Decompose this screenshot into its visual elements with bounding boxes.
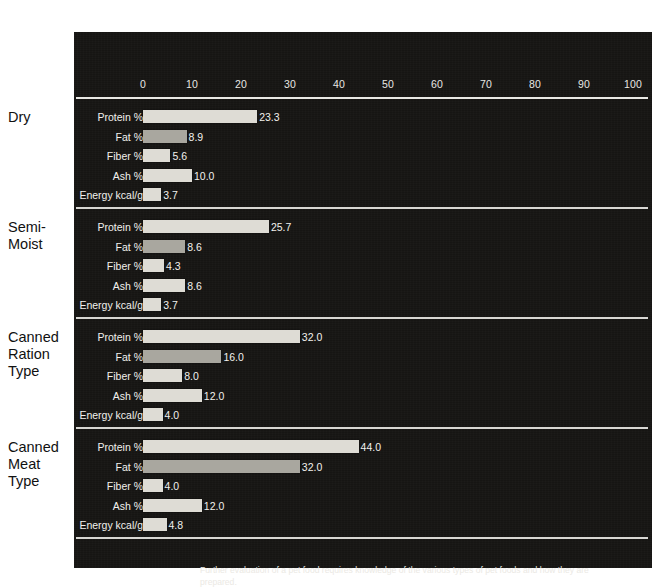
bar-row: Fat %8.9 xyxy=(74,129,652,145)
bar-row-label: Fat % xyxy=(51,130,143,144)
bar-row: Fiber %8.0 xyxy=(74,368,652,384)
bar-row: Fat %16.0 xyxy=(74,349,652,365)
group-label-line: Type xyxy=(8,363,72,380)
caption-separator xyxy=(76,537,648,539)
axis-rule xyxy=(76,97,648,99)
bar-value-label: 16.0 xyxy=(223,350,243,364)
chart-caption: Further evaluation of a pet food require… xyxy=(200,565,620,588)
x-tick-40: 40 xyxy=(333,78,345,90)
bar xyxy=(143,110,257,123)
bar-row: Energy kcal/g3.7 xyxy=(74,187,652,203)
bar-value-label: 8.6 xyxy=(187,279,202,293)
bar xyxy=(143,279,185,292)
bar-row: Energy kcal/g3.7 xyxy=(74,297,652,313)
group-label-canned-ration-type: CannedRationType xyxy=(8,329,72,380)
x-tick-10: 10 xyxy=(186,78,198,90)
bar xyxy=(143,259,164,272)
group-label-dry: Dry xyxy=(8,109,72,126)
bar-row: Fiber %4.0 xyxy=(74,478,652,494)
bar-value-label: 4.3 xyxy=(166,259,181,273)
bar-row: Ash %12.0 xyxy=(74,498,652,514)
bar-row-label: Ash % xyxy=(51,499,143,513)
group-label-line: Meat xyxy=(8,456,72,473)
bar-row-label: Fiber % xyxy=(51,149,143,163)
bar-value-label: 3.7 xyxy=(163,298,178,312)
x-tick-0: 0 xyxy=(140,78,146,90)
bar-value-label: 12.0 xyxy=(204,499,224,513)
bar-row: Fat %8.6 xyxy=(74,239,652,255)
bar xyxy=(143,479,163,492)
bar-row: Ash %10.0 xyxy=(74,168,652,184)
x-tick-50: 50 xyxy=(382,78,394,90)
bar-row: Ash %8.6 xyxy=(74,278,652,294)
bar xyxy=(143,169,192,182)
group-label-line: Moist xyxy=(8,236,72,253)
bar xyxy=(143,460,300,473)
group-label-line: Canned xyxy=(8,329,72,346)
bar-row: Energy kcal/g4.0 xyxy=(74,407,652,423)
group-separator-2 xyxy=(76,317,648,319)
bar-value-label: 5.6 xyxy=(172,149,187,163)
bar-value-label: 25.7 xyxy=(271,220,291,234)
bar-row: Ash %12.0 xyxy=(74,388,652,404)
group-label-semi-moist: Semi-Moist xyxy=(8,219,72,253)
bar-value-label: 44.0 xyxy=(361,440,381,454)
x-tick-30: 30 xyxy=(284,78,296,90)
bar-row: Energy kcal/g4.8 xyxy=(74,517,652,533)
bar-row: Fat %32.0 xyxy=(74,459,652,475)
bar-row: Fiber %5.6 xyxy=(74,148,652,164)
bar xyxy=(143,408,163,421)
bar-value-label: 8.9 xyxy=(189,130,204,144)
bar-row-label: Ash % xyxy=(51,279,143,293)
x-tick-100: 100 xyxy=(624,78,642,90)
bar-value-label: 8.6 xyxy=(187,240,202,254)
bar-row-label: Ash % xyxy=(51,389,143,403)
group-separator-3 xyxy=(76,427,648,429)
bar xyxy=(143,369,182,382)
x-tick-90: 90 xyxy=(578,78,590,90)
bar xyxy=(143,240,185,253)
bar xyxy=(143,518,167,531)
bar xyxy=(143,389,202,402)
bar-value-label: 8.0 xyxy=(184,369,199,383)
bar xyxy=(143,130,187,143)
group-label-line: Dry xyxy=(8,109,72,126)
bar-row-label: Energy kcal/g xyxy=(51,188,143,202)
group-label-canned-meat-type: CannedMeatType xyxy=(8,439,72,490)
group-label-line: Semi- xyxy=(8,219,72,236)
bar-value-label: 12.0 xyxy=(204,389,224,403)
bar-value-label: 32.0 xyxy=(302,460,322,474)
bar-row-label: Energy kcal/g xyxy=(51,408,143,422)
bar-value-label: 23.3 xyxy=(259,110,279,124)
group-separator-1 xyxy=(76,207,648,209)
group-label-line: Type xyxy=(8,473,72,490)
bar xyxy=(143,188,161,201)
bar-chart: 0102030405060708090100 Protein %23.3Fat … xyxy=(0,0,663,588)
bar-row-label: Energy kcal/g xyxy=(51,298,143,312)
bar-row: Protein %25.7 xyxy=(74,219,652,235)
bar-row-label: Ash % xyxy=(51,169,143,183)
group-label-line: Canned xyxy=(8,439,72,456)
bar xyxy=(143,149,170,162)
bar xyxy=(143,350,221,363)
bar xyxy=(143,330,300,343)
x-tick-80: 80 xyxy=(529,78,541,90)
bar-value-label: 4.8 xyxy=(169,518,184,532)
bar-row-label: Energy kcal/g xyxy=(51,518,143,532)
chart-plot-panel: 0102030405060708090100 Protein %23.3Fat … xyxy=(74,32,652,568)
bar-row: Protein %32.0 xyxy=(74,329,652,345)
x-axis-tick-labels: 0102030405060708090100 xyxy=(74,78,652,94)
bar-value-label: 10.0 xyxy=(194,169,214,183)
bar-row-label: Fiber % xyxy=(51,259,143,273)
bar xyxy=(143,220,269,233)
bar-row: Fiber %4.3 xyxy=(74,258,652,274)
x-tick-60: 60 xyxy=(431,78,443,90)
group-label-line: Ration xyxy=(8,346,72,363)
bar-value-label: 3.7 xyxy=(163,188,178,202)
bar xyxy=(143,298,161,311)
bar-row: Protein %44.0 xyxy=(74,439,652,455)
bar xyxy=(143,499,202,512)
bar xyxy=(143,440,359,453)
x-tick-20: 20 xyxy=(235,78,247,90)
bar-value-label: 32.0 xyxy=(302,330,322,344)
